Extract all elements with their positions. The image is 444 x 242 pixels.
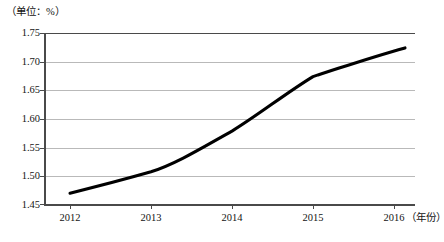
gridline-1-55 [44, 148, 415, 149]
line-chart: （单位：%） 1.75 1.70 1.65 1.60 1.55 1.50 1.4… [0, 0, 444, 242]
y-axis-tick [40, 204, 45, 205]
y-axis-label: 1.55 [6, 143, 40, 154]
gridline-1-70 [44, 62, 415, 63]
x-axis-label: 2013 [141, 212, 162, 223]
plot-area [44, 33, 415, 205]
x-axis-title: （年份） [406, 212, 444, 223]
x-axis-label: 2014 [222, 212, 243, 223]
gridline-1-50 [44, 176, 415, 177]
x-axis-tick [151, 204, 152, 209]
y-axis-label: 1.45 [6, 200, 40, 211]
x-axis-tick [70, 204, 71, 209]
x-axis-label: 2015 [303, 212, 324, 223]
x-axis-line [44, 204, 415, 206]
unit-label: （单位：%） [6, 3, 65, 18]
y-axis-label: 1.70 [6, 57, 40, 68]
y-axis-label: 1.50 [6, 171, 40, 182]
y-axis-tick [40, 119, 45, 120]
gridline-1-60 [44, 119, 415, 120]
y-axis-tick [40, 176, 45, 177]
y-axis-label: 1.60 [6, 114, 40, 125]
gridline-1-75 [44, 33, 415, 34]
y-axis-tick [40, 62, 45, 63]
y-axis-tick [40, 33, 45, 34]
y-axis-labels: 1.75 1.70 1.65 1.60 1.55 1.50 1.45 [0, 33, 40, 205]
y-axis-tick [40, 90, 45, 91]
y-axis-label: 1.75 [6, 28, 40, 39]
x-axis-label: 2016 [384, 212, 405, 223]
x-axis-tick [394, 204, 395, 209]
x-axis-tick [313, 204, 314, 209]
x-axis-tick [232, 204, 233, 209]
y-axis-tick [40, 148, 45, 149]
gridline-1-65 [44, 90, 415, 91]
x-axis-label: 2012 [60, 212, 81, 223]
y-axis-label: 1.65 [6, 85, 40, 96]
